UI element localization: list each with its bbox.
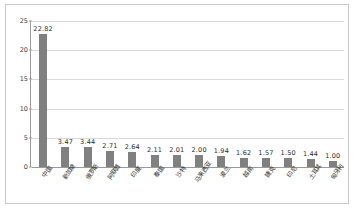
- bar-item[interactable]: 2.01: [166, 21, 188, 167]
- bar-item[interactable]: 1.44: [299, 21, 321, 167]
- x-axis-category-cell: 捷克: [255, 168, 277, 208]
- bar-value-label: 22.82: [33, 25, 53, 33]
- x-axis-category-labels: 中国新加坡俄罗斯阿联酋印度泰国沙特马来西亚波兰越南捷克印尼土耳其匈牙利: [32, 168, 344, 208]
- x-axis-category-cell: 阿联酋: [99, 168, 121, 208]
- bar-item[interactable]: 2.64: [121, 21, 143, 167]
- bar-value-label: 3.47: [58, 138, 73, 146]
- bar-value-label: 2.00: [191, 146, 206, 154]
- bar-item[interactable]: 3.47: [54, 21, 76, 167]
- bar-item[interactable]: 22.82: [32, 21, 54, 167]
- x-axis-category-cell: 印尼: [277, 168, 299, 208]
- bar-item[interactable]: 1.94: [210, 21, 232, 167]
- bar-value-label: 2.71: [102, 142, 117, 150]
- x-axis-category-cell: 马来西亚: [188, 168, 210, 208]
- x-axis-category-cell: 匈牙利: [322, 168, 344, 208]
- y-axis-tick-label: 10: [20, 105, 28, 113]
- y-axis-tick-label: 20: [20, 46, 28, 54]
- y-axis-tick-label: 0: [24, 163, 28, 171]
- bar-item[interactable]: 1.50: [277, 21, 299, 167]
- y-axis-tick-label: 15: [20, 75, 28, 83]
- bar-value-label: 1.94: [214, 147, 229, 155]
- bar-value-label: 1.00: [325, 152, 340, 160]
- bar-item[interactable]: 2.11: [143, 21, 165, 167]
- plot-area: 0510152025 22.823.473.442.712.642.112.01…: [32, 21, 344, 167]
- y-axis-tick-label: 25: [20, 17, 28, 25]
- x-axis-category-cell: 泰国: [143, 168, 165, 208]
- bar-item[interactable]: 2.71: [99, 21, 121, 167]
- x-axis-category-cell: 土耳其: [299, 168, 321, 208]
- x-axis-category-cell: 新加坡: [54, 168, 76, 208]
- bar-value-label: 1.50: [281, 149, 296, 157]
- y-axis-tick-label: 5: [24, 134, 28, 142]
- bar-value-label: 1.44: [303, 150, 318, 158]
- chart-frame: 0510152025 22.823.473.442.712.642.112.01…: [5, 4, 349, 204]
- bar[interactable]: [39, 34, 47, 167]
- bar-value-label: 2.01: [169, 146, 184, 154]
- bars-group: 22.823.473.442.712.642.112.012.001.941.6…: [32, 21, 344, 167]
- x-axis-category-cell: 俄罗斯: [77, 168, 99, 208]
- bar-value-label: 1.62: [236, 149, 251, 157]
- x-axis-category-cell: 波兰: [210, 168, 232, 208]
- bar-item[interactable]: 1.00: [322, 21, 344, 167]
- bar-item[interactable]: 1.62: [233, 21, 255, 167]
- x-axis-category-cell: 中国: [32, 168, 54, 208]
- bar-value-label: 1.57: [258, 149, 273, 157]
- bar-value-label: 2.11: [147, 146, 162, 154]
- bar-value-label: 2.64: [125, 143, 140, 151]
- bar-item[interactable]: 1.57: [255, 21, 277, 167]
- bar-value-label: 3.44: [80, 138, 95, 146]
- x-axis-category-cell: 印度: [121, 168, 143, 208]
- x-axis-category-cell: 越南: [233, 168, 255, 208]
- x-axis-category-cell: 沙特: [166, 168, 188, 208]
- bar-item[interactable]: 3.44: [77, 21, 99, 167]
- bar-item[interactable]: 2.00: [188, 21, 210, 167]
